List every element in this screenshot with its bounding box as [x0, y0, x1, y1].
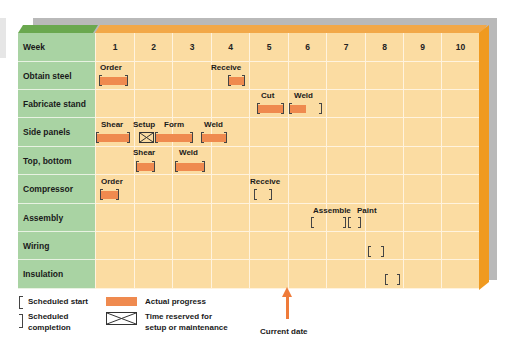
grid-side-face [479, 25, 489, 290]
progress-bar [290, 105, 306, 113]
row-label: Fabricate stand [18, 90, 95, 118]
week-header-label: Week [18, 33, 95, 62]
scheduled-start-bracket [100, 189, 103, 200]
scheduled-start-bracket [136, 161, 139, 172]
week-10-header: 10 [441, 33, 479, 62]
scheduled-completion-bracket [343, 217, 346, 228]
scheduled-start-bracket [254, 189, 257, 200]
row-label: Obtain steel [18, 62, 95, 90]
week-3-header: 3 [172, 33, 211, 62]
task-label-receive: Receive [250, 177, 280, 186]
scheduled-start-bracket [96, 132, 99, 143]
row-side-panels: Side panels [18, 118, 479, 147]
legend-scheduled-completion-label-1: Scheduled [28, 311, 68, 322]
task-label-setup: Setup [133, 120, 155, 129]
row-wiring: Wiring [18, 232, 479, 260]
week-4-header: 4 [211, 33, 249, 62]
task-label-shear: Shear [101, 120, 123, 129]
setup-reserved-box [139, 132, 154, 143]
scheduled-start-bracket [155, 132, 158, 143]
legend-setup-label-2: setup or maintenance [145, 322, 228, 333]
task-label-form: Form [164, 120, 184, 129]
row-label: Insulation [18, 260, 95, 289]
task-label-weld: Weld [294, 91, 313, 100]
scheduled-start-bracket [99, 75, 102, 86]
scheduled-completion-bracket [190, 132, 193, 143]
row-label: Assembly [18, 204, 95, 232]
row-insulation: Insulation [18, 260, 479, 289]
legend-actual-progress-label: Actual progress [145, 296, 206, 307]
legend-scheduled-start-icon [19, 296, 23, 309]
scheduled-completion-bracket [202, 161, 205, 172]
scheduled-start-bracket [228, 75, 231, 86]
scheduled-start-bracket [385, 274, 388, 285]
progress-bar [202, 134, 226, 142]
scheduled-completion-bracket [397, 274, 400, 285]
row-fabricate-stand: Fabricate stand [18, 90, 479, 118]
task-label-order: Order [101, 177, 123, 186]
scheduled-start-bracket [175, 161, 178, 172]
current-date-arrow-shaft [286, 295, 289, 319]
task-label-paint: Paint [357, 206, 377, 215]
row-top-bottom: Top, bottom [18, 147, 479, 175]
week-9-header: 9 [403, 33, 441, 62]
progress-bar [156, 134, 192, 142]
legend-setup-icon [106, 312, 137, 325]
scheduled-completion-bracket [358, 217, 361, 228]
legend-setup-label-1: Time reserved for [145, 311, 212, 322]
week-1-header: 1 [95, 33, 134, 62]
label-column-top-face [18, 25, 98, 33]
progress-bar [100, 77, 127, 85]
row-label: Top, bottom [18, 147, 95, 175]
scheduled-completion-bracket [224, 132, 227, 143]
task-label-cut: Cut [261, 91, 274, 100]
scheduled-completion-bracket [116, 189, 119, 200]
scheduled-completion-bracket [281, 103, 284, 114]
task-label-weld: Weld [204, 120, 223, 129]
left-edge-mark [0, 18, 6, 58]
scheduled-start-bracket [368, 246, 371, 257]
scheduled-start-bracket [311, 217, 314, 228]
scheduled-completion-bracket [381, 246, 384, 257]
week-2-header: 2 [134, 33, 172, 62]
task-label-order: Order [100, 63, 122, 72]
scheduled-start-bracket [257, 103, 260, 114]
row-compressor: Compressor [18, 175, 479, 204]
progress-bar [97, 134, 129, 142]
task-label-shear: Shear [133, 148, 155, 157]
x-mark-icon [107, 313, 136, 324]
week-7-header: 7 [326, 33, 365, 62]
scheduled-start-bracket [348, 217, 351, 228]
progress-bar [176, 163, 204, 171]
task-label-weld: Weld [179, 148, 198, 157]
scheduled-start-bracket [201, 132, 204, 143]
scheduled-completion-bracket [127, 132, 130, 143]
week-5-header: 5 [249, 33, 288, 62]
x-mark-icon [140, 133, 153, 142]
task-label-assemble: Assemble [313, 206, 351, 215]
legend-scheduled-completion-label-2: completion [28, 322, 71, 333]
scheduled-completion-bracket [269, 189, 272, 200]
legend-actual-progress-swatch [106, 297, 137, 306]
row-assembly: Assembly [18, 204, 479, 232]
grid-top-face [95, 25, 487, 33]
legend-scheduled-start-label: Scheduled start [28, 296, 88, 307]
legend-scheduled-completion-icon [19, 314, 23, 328]
row-label: Compressor [18, 175, 95, 204]
scheduled-completion-bracket [242, 75, 245, 86]
scheduled-completion-bracket [152, 161, 155, 172]
row-label: Wiring [18, 232, 95, 260]
week-8-header: 8 [365, 33, 403, 62]
current-date-label: Current date [260, 326, 308, 337]
gantt-grid: Week 1 2 3 4 5 6 7 8 9 10 Obtain steel F… [18, 33, 479, 289]
task-label-receive: Receive [211, 63, 241, 72]
row-obtain-steel: Obtain steel [18, 62, 479, 90]
scheduled-start-bracket [289, 103, 292, 114]
scheduled-completion-bracket [125, 75, 128, 86]
header-row: Week 1 2 3 4 5 6 7 8 9 10 [18, 33, 479, 62]
week-6-header: 6 [288, 33, 326, 62]
row-label: Side panels [18, 118, 95, 147]
scheduled-completion-bracket [319, 103, 322, 114]
progress-bar [258, 105, 283, 113]
